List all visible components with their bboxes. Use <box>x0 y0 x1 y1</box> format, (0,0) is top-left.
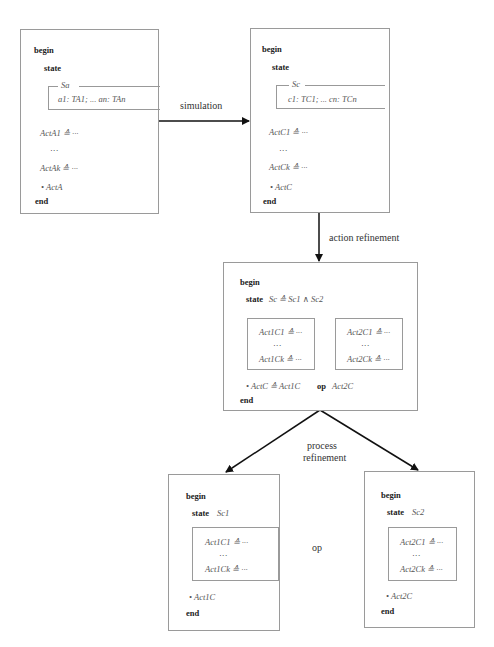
begin-keyword: begin <box>240 277 260 287</box>
process1-actions-box: Act1C1 ≙ ··· ··· Act1Ck ≙ ··· <box>192 527 279 581</box>
main-action: • ActA <box>41 182 62 192</box>
state-name: Sc1 <box>217 508 229 518</box>
begin-keyword: begin <box>186 491 206 501</box>
op-operator-label: op <box>312 542 322 553</box>
end-keyword: end <box>186 608 199 618</box>
process-refinement-label-line1: process <box>307 440 337 451</box>
main-action: • ActC <box>270 182 292 192</box>
action-last: Act1Ck ≙ ··· <box>205 564 248 574</box>
action-first: ActA1 ≙ ··· <box>40 128 78 138</box>
begin-keyword: begin <box>34 45 54 55</box>
process-refinement-label-line2: refinement <box>303 452 346 463</box>
action-last: ActCk ≙ ··· <box>269 162 307 172</box>
process1-actions-box: Act1C1 ≙ ··· ··· Act1Ck ≙ ··· <box>247 318 315 370</box>
main-action-suffix: Act2C <box>332 381 353 391</box>
ellipsis: ··· <box>273 340 282 350</box>
state-definition: Sc ≙ Sc1 ∧ Sc2 <box>269 294 323 304</box>
schema-name: Sc <box>292 79 300 89</box>
state-keyword: state <box>192 508 209 518</box>
begin-keyword: begin <box>381 490 401 500</box>
schema-declaration: c1: TC1; ... cn: TCn <box>288 94 357 104</box>
ellipsis: ··· <box>412 550 421 560</box>
action-first: Act1C1 ≙ ··· <box>205 537 248 547</box>
state-name: Sc2 <box>412 507 424 517</box>
ellipsis: ··· <box>50 145 59 155</box>
state-keyword: state <box>44 63 61 73</box>
main-action: • Act2C <box>386 591 412 601</box>
concrete-spec-box: begin state Sc c1: TC1; ... cn: TCn ActC… <box>250 28 390 213</box>
ellipsis: ··· <box>279 145 288 155</box>
action-first: Act2C1 ≙ ··· <box>400 537 443 547</box>
action-first: ActC1 ≙ ··· <box>269 127 308 137</box>
action-first: Act2C1 ≙ ··· <box>347 327 390 337</box>
state-keyword: state <box>272 62 289 72</box>
state-keyword: state <box>246 294 263 304</box>
action-last: Act1Ck ≙ ··· <box>259 354 302 364</box>
action-refinement-label: action refinement <box>329 232 399 243</box>
ellipsis: ··· <box>361 340 370 350</box>
abstract-spec-box: begin state Sa a1: TA1; ... an: TAn ActA… <box>20 29 159 214</box>
end-keyword: end <box>240 395 253 405</box>
end-keyword: end <box>35 196 48 206</box>
begin-keyword: begin <box>262 44 282 54</box>
action-last: ActAk ≙ ··· <box>40 163 78 173</box>
ellipsis: ··· <box>219 550 228 560</box>
main-action-prefix: • ActC ≙ Act1C <box>246 381 300 391</box>
action-first: Act1C1 ≙ ··· <box>259 327 302 337</box>
main-action: • Act1C <box>189 592 215 602</box>
process1-box: begin state Sc1 Act1C1 ≙ ··· ··· Act1Ck … <box>168 474 280 631</box>
action-last: Act2Ck ≙ ··· <box>347 354 390 364</box>
process2-actions-box: Act2C1 ≙ ··· ··· Act2Ck ≙ ··· <box>335 318 403 370</box>
schema-name: Sa <box>61 80 70 90</box>
op-keyword: op <box>317 381 326 391</box>
action-last: Act2Ck ≙ ··· <box>400 564 443 574</box>
end-keyword: end <box>263 196 276 206</box>
schema-declaration: a1: TA1; ... an: TAn <box>58 94 125 104</box>
end-keyword: end <box>381 606 394 616</box>
state-keyword: state <box>387 507 404 517</box>
simulation-label: simulation <box>180 100 222 111</box>
process2-box: begin state Sc2 Act2C1 ≙ ··· ··· Act2Ck … <box>364 471 475 628</box>
refined-spec-box: begin state Sc ≙ Sc1 ∧ Sc2 Act1C1 ≙ ··· … <box>223 262 418 411</box>
process2-actions-box: Act2C1 ≙ ··· ··· Act2Ck ≙ ··· <box>388 527 457 581</box>
